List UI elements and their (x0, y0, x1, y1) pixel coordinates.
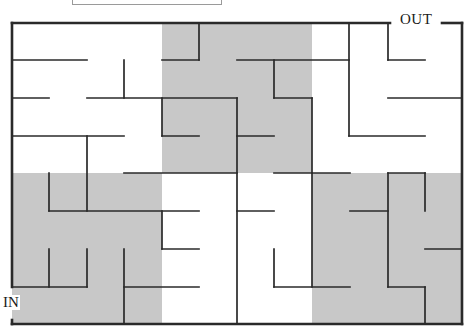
maze-svg (0, 0, 470, 332)
maze-diagram: OUT IN (0, 0, 470, 332)
entrance-label: IN (2, 295, 20, 310)
exit-label: OUT (399, 12, 433, 27)
